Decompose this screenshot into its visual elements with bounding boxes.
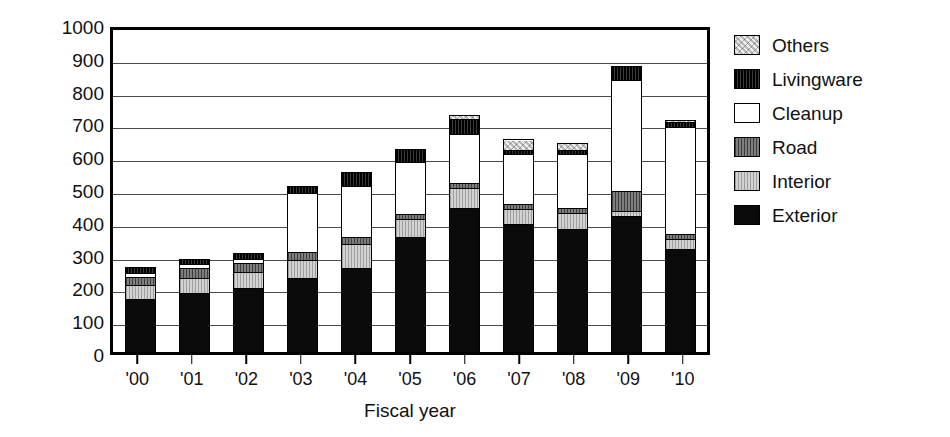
bar-column[interactable]	[167, 30, 221, 352]
stacked-bar[interactable]	[612, 67, 641, 352]
legend-item-road[interactable]: Road	[734, 130, 944, 164]
bar-column[interactable]	[113, 30, 167, 352]
bar-segment-interior[interactable]	[450, 188, 479, 208]
bar-column[interactable]	[599, 30, 653, 352]
bar-segment-interior[interactable]	[342, 244, 371, 269]
bar-series-group	[113, 30, 707, 352]
stacked-bar[interactable]	[558, 144, 587, 352]
x-axis-tick-label: '03	[274, 366, 329, 392]
bar-segment-others[interactable]	[504, 141, 533, 151]
stacked-bar[interactable]	[234, 254, 263, 352]
bar-segment-exterior[interactable]	[126, 299, 155, 352]
bar-segment-exterior[interactable]	[666, 249, 695, 352]
bar-segment-exterior[interactable]	[234, 288, 263, 352]
legend-item-others[interactable]: Others	[734, 28, 944, 62]
legend-swatch-exterior-icon	[734, 205, 760, 225]
y-axis-tick-label: 0	[46, 346, 104, 365]
bar-segment-road[interactable]	[234, 263, 263, 271]
bar-segment-interior[interactable]	[288, 260, 317, 278]
y-axis-tick-label: 500	[46, 182, 104, 201]
bar-segment-road[interactable]	[288, 252, 317, 260]
x-axis-tick-labels: '00'01'02'03'04'05'06'07'08'09'10	[110, 366, 710, 392]
bar-segment-cleanup[interactable]	[288, 193, 317, 252]
chart-figure: 100 million yen 100090080070060050040030…	[0, 0, 950, 437]
bar-segment-exterior[interactable]	[612, 216, 641, 352]
x-axis-title: Fiscal year	[110, 398, 710, 424]
x-axis-tick	[191, 355, 193, 364]
bar-segment-cleanup[interactable]	[666, 127, 695, 234]
legend-item-interior[interactable]: Interior	[734, 164, 944, 198]
bar-column[interactable]	[437, 30, 491, 352]
stacked-bar[interactable]	[450, 116, 479, 352]
plot-area	[110, 27, 710, 355]
stacked-bar[interactable]	[504, 140, 533, 352]
legend-label: Others	[772, 36, 829, 55]
x-axis-tick	[300, 355, 302, 364]
bar-segment-road[interactable]	[612, 191, 641, 211]
bar-segment-exterior[interactable]	[180, 293, 209, 352]
bar-segment-interior[interactable]	[234, 272, 263, 288]
bar-segment-livingware[interactable]	[342, 173, 371, 186]
bar-segment-cleanup[interactable]	[450, 134, 479, 183]
bar-segment-cleanup[interactable]	[558, 154, 587, 208]
bar-segment-exterior[interactable]	[558, 229, 587, 352]
legend-item-cleanup[interactable]: Cleanup	[734, 96, 944, 130]
x-axis-tick	[518, 355, 520, 364]
bar-segment-cleanup[interactable]	[504, 154, 533, 205]
y-axis-tick-label: 300	[46, 247, 104, 266]
x-axis-tick-label: '02	[219, 366, 274, 392]
bar-column[interactable]	[221, 30, 275, 352]
x-axis-tick-label: '06	[437, 366, 492, 392]
bar-column[interactable]	[491, 30, 545, 352]
legend-label: Road	[772, 138, 817, 157]
stacked-bar[interactable]	[342, 173, 371, 352]
bar-segment-cleanup[interactable]	[396, 162, 425, 214]
bar-segment-exterior[interactable]	[396, 237, 425, 352]
bar-segment-interior[interactable]	[180, 278, 209, 293]
bar-column[interactable]	[275, 30, 329, 352]
bar-segment-cleanup[interactable]	[612, 80, 641, 192]
bar-column[interactable]	[383, 30, 437, 352]
y-axis-tick-label: 800	[46, 83, 104, 102]
bar-segment-exterior[interactable]	[504, 224, 533, 352]
x-axis-tick	[409, 355, 411, 364]
legend-item-livingware[interactable]: Livingware	[734, 62, 944, 96]
stacked-bar[interactable]	[126, 268, 155, 352]
bar-segment-road[interactable]	[126, 277, 155, 285]
legend-label: Cleanup	[772, 104, 843, 123]
x-axis-tick	[573, 355, 575, 364]
bar-segment-livingware[interactable]	[396, 150, 425, 161]
bar-column[interactable]	[329, 30, 383, 352]
bar-segment-interior[interactable]	[396, 219, 425, 237]
bar-segment-livingware[interactable]	[612, 67, 641, 80]
y-axis-tick-labels: 10009008007006005004003002001000	[46, 27, 104, 355]
bar-column[interactable]	[653, 30, 707, 352]
bar-segment-interior[interactable]	[126, 285, 155, 299]
stacked-bar[interactable]	[180, 260, 209, 352]
bar-segment-interior[interactable]	[504, 209, 533, 224]
legend-swatch-interior-icon	[734, 171, 760, 191]
bar-segment-exterior[interactable]	[288, 278, 317, 352]
legend-item-exterior[interactable]: Exterior	[734, 198, 944, 232]
y-axis-tick-label: 700	[46, 116, 104, 135]
x-axis-tick-label: '01	[165, 366, 220, 392]
bar-segment-exterior[interactable]	[450, 208, 479, 352]
bar-segment-interior[interactable]	[666, 239, 695, 249]
bar-column[interactable]	[545, 30, 599, 352]
y-axis-tick-label: 600	[46, 149, 104, 168]
bar-segment-road[interactable]	[180, 268, 209, 278]
legend-label: Livingware	[772, 70, 863, 89]
stacked-bar[interactable]	[288, 187, 317, 352]
stacked-bar[interactable]	[666, 121, 695, 352]
legend-swatch-others-icon	[734, 35, 760, 55]
bar-segment-interior[interactable]	[558, 213, 587, 229]
x-axis-tick	[355, 355, 357, 364]
x-axis-tick	[627, 355, 629, 364]
stacked-bar[interactable]	[396, 150, 425, 352]
legend-swatch-livingware-icon	[734, 69, 760, 89]
bar-segment-cleanup[interactable]	[342, 186, 371, 237]
x-axis-tick	[246, 355, 248, 364]
x-axis-tick-label: '04	[328, 366, 383, 392]
bar-segment-exterior[interactable]	[342, 268, 371, 352]
bar-segment-livingware[interactable]	[450, 119, 479, 134]
